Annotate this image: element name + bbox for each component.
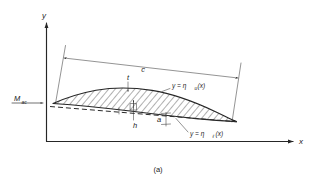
airfoil-section-hatched: [53, 88, 237, 121]
thickness-label: t: [127, 73, 130, 82]
chord-extension-line-right: [232, 63, 241, 122]
angle-label: a: [157, 115, 161, 124]
axis-group: [47, 23, 294, 142]
chord-extension-line-left: [56, 46, 66, 104]
moment-subscript-label: ac: [22, 100, 28, 105]
y-axis-label: y: [41, 11, 47, 20]
upper-surface-label: y = η: [171, 82, 187, 90]
moment-label: M: [14, 94, 21, 103]
upper-surface-leader: [162, 89, 170, 92]
airfoil-figure: y x M ac c t h a y = η u (x) y = η ℓ (x)…: [0, 0, 317, 183]
lower-surface-suffix: (x): [216, 130, 224, 138]
airfoil-diagram-canvas: y x M ac c t h a y = η u (x) y = η ℓ (x)…: [0, 0, 317, 183]
chord-dimension-arrow: [64, 58, 238, 78]
lower-surface-subscript: ℓ: [212, 134, 215, 139]
airfoil-body-group: [53, 88, 237, 121]
upper-surface-suffix: (x): [198, 82, 206, 90]
figure-caption: (a): [153, 165, 163, 174]
x-axis-label: x: [298, 137, 304, 146]
camber-height-label: h: [133, 121, 137, 130]
chord-label: c: [141, 65, 145, 74]
lower-surface-leader: [176, 119, 188, 133]
angle-tick-lower: [162, 124, 171, 125]
lower-surface-label: y = η: [189, 130, 205, 138]
